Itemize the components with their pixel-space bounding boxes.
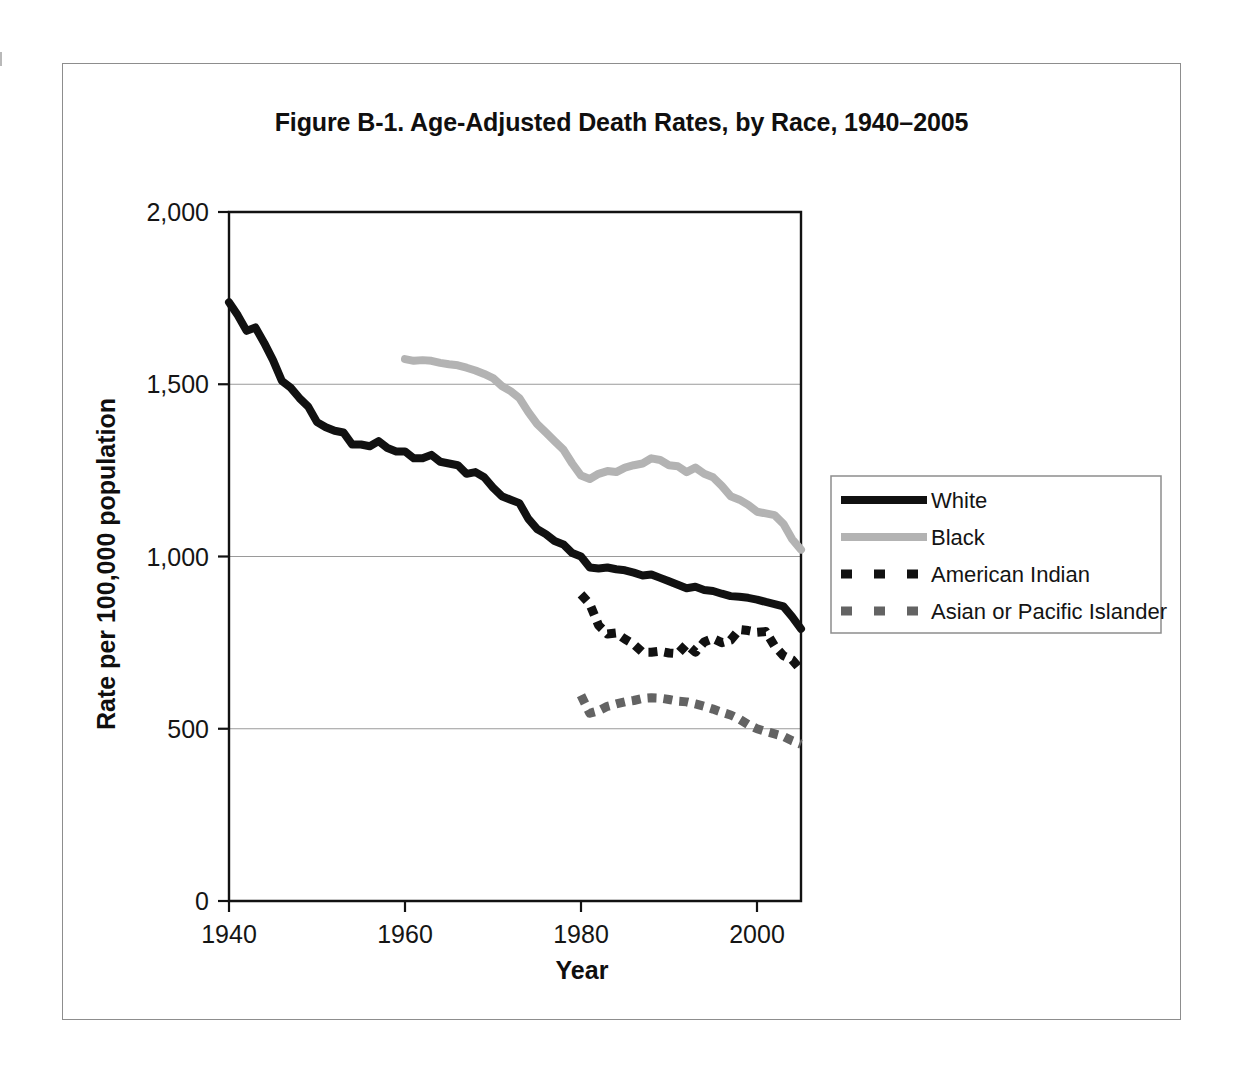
series-line-white — [229, 302, 801, 629]
figure-frame: Figure B-1. Age-Adjusted Death Rates, by… — [62, 63, 1181, 1020]
line-chart: 05001,0001,5002,000 1940196019802000 Yea… — [63, 64, 1182, 1021]
tickmarks-group — [218, 212, 757, 912]
x-tick-label-1960: 1960 — [377, 920, 433, 948]
page-edge-mark — [0, 52, 2, 66]
axis-titles-group: Year Rate per 100,000 population — [92, 398, 609, 984]
x-axis-title: Year — [556, 956, 609, 984]
x-tick-label-2000: 2000 — [729, 920, 785, 948]
series-line-black — [405, 359, 801, 550]
y-tick-label-1000: 1,000 — [146, 543, 209, 571]
y-axis-tick-labels: 05001,0001,5002,000 — [146, 198, 209, 915]
series-line-asian-or-pacific-islander — [581, 695, 801, 744]
x-axis-tick-labels: 1940196019802000 — [201, 920, 785, 948]
y-axis-title: Rate per 100,000 population — [92, 398, 120, 730]
y-tick-label-1500: 1,500 — [146, 370, 209, 398]
legend-label-0: White — [931, 488, 987, 513]
series-group — [229, 302, 801, 744]
x-tick-label-1940: 1940 — [201, 920, 257, 948]
legend-label-3: Asian or Pacific Islander — [931, 599, 1167, 624]
legend-label-2: American Indian — [931, 562, 1090, 587]
page-canvas: Figure B-1. Age-Adjusted Death Rates, by… — [0, 0, 1240, 1079]
y-tick-label-500: 500 — [167, 715, 209, 743]
x-tick-label-1980: 1980 — [553, 920, 609, 948]
y-tick-label-2000: 2,000 — [146, 198, 209, 226]
gridlines-group — [229, 384, 801, 729]
legend-label-1: Black — [931, 525, 986, 550]
legend: WhiteBlackAmerican IndianAsian or Pacifi… — [831, 476, 1167, 633]
y-tick-label-0: 0 — [195, 887, 209, 915]
chart-canvas: 05001,0001,5002,000 1940196019802000 Yea… — [63, 64, 1182, 1021]
